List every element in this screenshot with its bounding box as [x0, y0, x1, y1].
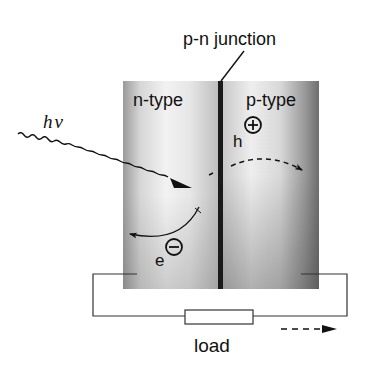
electron-drift-arrow	[130, 207, 201, 236]
photon-wave-arrow	[18, 133, 192, 188]
hole-drift-arrow	[209, 159, 302, 175]
current-direction-arrow	[281, 325, 337, 333]
electron-label: e	[155, 252, 164, 269]
hole-label: h	[233, 133, 242, 150]
plus-circle-icon	[245, 117, 261, 133]
diagram-lines	[0, 0, 372, 374]
solar-cell-diagram: p-n junction n-type p-type hν h e load	[0, 0, 372, 374]
load-resistor	[185, 310, 253, 324]
junction-label: p-n junction	[183, 30, 276, 48]
minus-circle-icon	[166, 239, 182, 255]
photon-label: hν	[43, 112, 65, 131]
p-type-label: p-type	[246, 91, 296, 109]
n-type-label: n-type	[133, 91, 183, 109]
junction-leader-line	[221, 51, 244, 81]
load-label: load	[194, 336, 230, 355]
